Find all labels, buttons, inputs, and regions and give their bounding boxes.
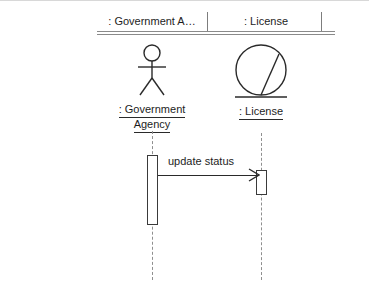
- instance-label-line-1: : Government: [119, 103, 186, 118]
- instance-label-government-agency: : Government Agency: [100, 103, 204, 133]
- canvas-top-border: [0, 0, 369, 1]
- message-arrowhead-icon: [248, 168, 260, 182]
- message-label-update-status: update status: [168, 155, 278, 167]
- instance-label-license: : License: [220, 105, 302, 120]
- instance-label-line-1: : License: [239, 105, 283, 120]
- header-column-separator-1: [207, 12, 208, 31]
- header-column-separator-2: [321, 12, 322, 31]
- message-line-update-status[interactable]: [158, 175, 258, 176]
- sequence-diagram-canvas: : Government A… : License : Government A…: [0, 0, 369, 285]
- header-column-license[interactable]: : License: [211, 10, 321, 32]
- header-rule-upper: [97, 31, 335, 32]
- activation-bar-government-agency[interactable]: [147, 155, 158, 225]
- actor-stick-figure-icon[interactable]: [134, 44, 170, 96]
- entity-circle-icon[interactable]: [232, 42, 290, 102]
- header-rule-lower: [97, 34, 335, 35]
- participant-header-bar: : Government A… : License: [97, 10, 335, 32]
- header-column-government-agency[interactable]: : Government A…: [97, 10, 207, 32]
